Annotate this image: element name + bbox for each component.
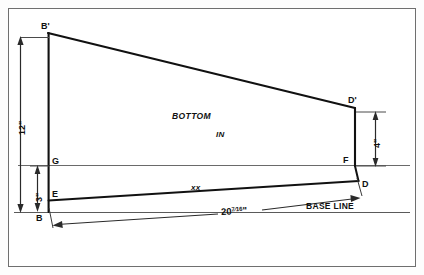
arrowhead-length-left	[53, 221, 63, 228]
length-unit: "	[242, 205, 247, 216]
vertex-label-g: G	[52, 157, 59, 166]
edge-e-d	[49, 181, 359, 201]
xx-annotation: xx	[191, 184, 201, 192]
extension-tick-b	[49, 208, 53, 228]
dimension-label-4in: 4"	[373, 139, 382, 148]
vertex-label-d: D	[362, 180, 369, 189]
dimension-label-3in: 3"	[35, 193, 44, 202]
length-whole-number: 20	[221, 205, 232, 217]
bottom-annotation: BOTTOM	[172, 112, 211, 121]
edge-bprime-dprime	[48, 33, 355, 108]
in-annotation: IN	[216, 131, 225, 139]
dimension-label-length: 207⁄16"	[221, 206, 248, 217]
vertex-label-f: F	[343, 156, 349, 165]
arrowhead-3in-bottom	[35, 203, 41, 212]
drawing-sheet: B' D' G F E D B BOTTOM IN xx BASE LINE 1…	[0, 0, 424, 275]
dimension-label-12in: 12"	[18, 121, 27, 135]
length-numerator: 7	[231, 206, 235, 212]
vertex-label-e: E	[52, 190, 58, 199]
vertex-label-d-prime: D'	[348, 96, 357, 105]
vertex-label-b: B	[36, 214, 43, 223]
technical-drawing-canvas	[0, 0, 424, 275]
length-fraction: 7⁄16	[231, 206, 242, 213]
arrowhead-12in-bottom	[17, 204, 23, 213]
vertex-label-b-prime: B'	[41, 22, 50, 31]
dimension-line-length-left	[57, 214, 218, 225]
base-line-annotation: BASE LINE	[306, 202, 354, 211]
